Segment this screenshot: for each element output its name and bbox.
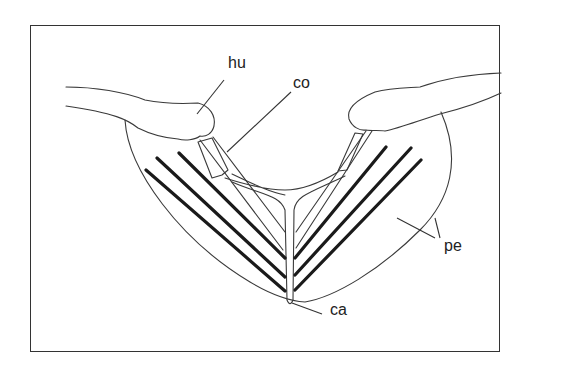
diagram-drawing <box>0 0 561 369</box>
pectoral-muscle-outline <box>125 112 452 302</box>
left-furcula-line <box>200 140 283 250</box>
anatomical-diagram: hu co pe ca <box>0 0 561 369</box>
leader-line-pe <box>397 218 440 238</box>
leader-line-ca <box>292 303 322 314</box>
leader-line-co <box>227 92 291 152</box>
left-furcula-line-2 <box>213 137 285 232</box>
label-co: co <box>293 75 310 91</box>
right-humerus-shape <box>349 73 501 131</box>
label-pe: pe <box>444 238 462 254</box>
label-ca: ca <box>330 302 347 318</box>
left-muscle-fiber-1 <box>179 153 285 258</box>
label-hu: hu <box>228 55 246 71</box>
left-humerus-shape <box>66 87 214 140</box>
right-furcula-line <box>296 131 366 232</box>
leader-line-hu <box>197 80 224 114</box>
right-muscle-fiber-2 <box>295 148 411 275</box>
